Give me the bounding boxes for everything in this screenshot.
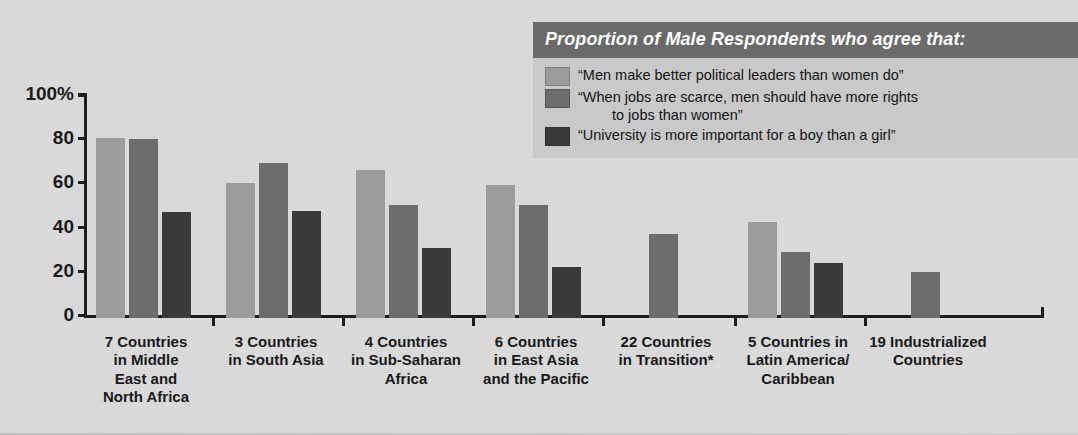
legend-swatch-university bbox=[545, 127, 570, 146]
bar-g1-s0 bbox=[226, 183, 255, 318]
category-label-line: in Sub-Saharan bbox=[340, 351, 472, 369]
category-label-line: in Transition* bbox=[600, 351, 732, 369]
bar-g2-s1 bbox=[389, 205, 418, 318]
bar-g2-s2 bbox=[422, 248, 451, 318]
chart-legend: Proportion of Male Respondents who agree… bbox=[533, 22, 1078, 158]
legend-label-2: “University is more important for a boy … bbox=[578, 126, 896, 144]
legend-item-1: “When jobs are scarce, men should have m… bbox=[545, 88, 1068, 124]
category-label-line: 5 Countries in bbox=[732, 333, 864, 351]
category-label-line: in East Asia bbox=[470, 351, 602, 369]
category-label-line: Caribbean bbox=[732, 370, 864, 388]
legend-item-2: “University is more important for a boy … bbox=[545, 126, 1068, 146]
bar-g4-s1 bbox=[649, 234, 678, 318]
legend-items: “Men make better political leaders than … bbox=[533, 58, 1078, 158]
category-label-0: 7 Countriesin MiddleEast andNorth Africa bbox=[80, 333, 212, 406]
category-label-5: 5 Countries inLatin America/Caribbean bbox=[732, 333, 864, 388]
bar-g5-s2 bbox=[814, 263, 843, 318]
legend-swatch-political-leaders bbox=[545, 67, 570, 86]
category-label-line: 7 Countries bbox=[80, 333, 212, 351]
bar-g3-s2 bbox=[552, 267, 581, 318]
bar-g5-s1 bbox=[781, 252, 810, 318]
category-label-line: 4 Countries bbox=[340, 333, 472, 351]
bar-g1-s2 bbox=[292, 211, 321, 318]
category-label-line: North Africa bbox=[80, 388, 212, 406]
bar-g0-s0 bbox=[96, 138, 125, 318]
legend-swatch-jobs-rights bbox=[545, 89, 570, 108]
category-label-6: 19 IndustrializedCountries bbox=[862, 333, 994, 370]
bar-g2-s0 bbox=[356, 170, 385, 318]
legend-label-1: “When jobs are scarce, men should have m… bbox=[578, 88, 918, 124]
bar-g3-s0 bbox=[486, 185, 515, 318]
category-label-line: 19 Industrialized bbox=[862, 333, 994, 351]
category-label-1: 3 Countriesin South Asia bbox=[210, 333, 342, 370]
category-label-3: 6 Countriesin East Asiaand the Pacific bbox=[470, 333, 602, 388]
legend-item-0: “Men make better political leaders than … bbox=[545, 66, 1068, 86]
category-label-4: 22 Countriesin Transition* bbox=[600, 333, 732, 370]
category-label-2: 4 Countriesin Sub-SaharanAfrica bbox=[340, 333, 472, 388]
category-label-line: Countries bbox=[862, 351, 994, 369]
category-label-line: Africa bbox=[340, 370, 472, 388]
legend-label-0: “Men make better political leaders than … bbox=[578, 66, 904, 84]
category-label-line: and the Pacific bbox=[470, 370, 602, 388]
category-label-line: 22 Countries bbox=[600, 333, 732, 351]
category-label-line: in Middle bbox=[80, 351, 212, 369]
legend-title: Proportion of Male Respondents who agree… bbox=[533, 22, 1078, 58]
category-label-line: East and bbox=[80, 370, 212, 388]
bar-g6-s1 bbox=[911, 272, 940, 318]
bar-g0-s1 bbox=[129, 139, 158, 318]
bar-chart: 020406080100% 7 Countriesin MiddleEast a… bbox=[0, 0, 1078, 435]
category-label-line: 6 Countries bbox=[470, 333, 602, 351]
category-label-line: 3 Countries bbox=[210, 333, 342, 351]
bar-g3-s1 bbox=[519, 205, 548, 318]
bar-g0-s2 bbox=[162, 212, 191, 318]
category-label-line: in South Asia bbox=[210, 351, 342, 369]
bar-g5-s0 bbox=[748, 222, 777, 318]
bar-g1-s1 bbox=[259, 163, 288, 318]
category-label-line: Latin America/ bbox=[732, 351, 864, 369]
